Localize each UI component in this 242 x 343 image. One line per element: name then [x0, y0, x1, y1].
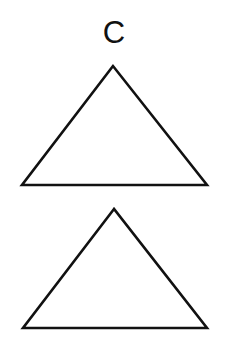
upper-triangle	[22, 66, 207, 185]
triangles-figure	[0, 0, 242, 343]
lower-triangle	[23, 209, 207, 328]
